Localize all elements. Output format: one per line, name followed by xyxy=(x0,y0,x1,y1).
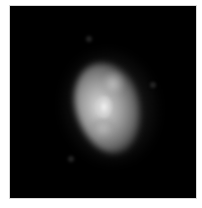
blob-upper-lobe xyxy=(102,72,124,96)
noise-speck xyxy=(86,36,92,42)
image-frame xyxy=(10,6,196,198)
noise-speck xyxy=(150,82,156,88)
blob-lower-lobe xyxy=(90,118,116,140)
blob-core xyxy=(96,96,112,118)
noise-speck xyxy=(68,156,74,162)
